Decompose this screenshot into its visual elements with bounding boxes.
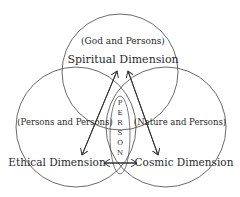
svg-text:S: S xyxy=(118,129,123,137)
svg-text:N: N xyxy=(117,149,123,157)
ethical-circle xyxy=(16,67,136,187)
cosmic-title: Cosmic Dimension xyxy=(135,156,234,168)
ethical-subtitle: (Persons and Persons) xyxy=(17,117,113,127)
venn-diagram: (God and Persons) Spiritual Dimension (P… xyxy=(0,0,240,197)
svg-text:R: R xyxy=(117,119,123,127)
ethical-title: Ethical Dimension xyxy=(8,156,106,168)
cosmic-circle xyxy=(106,67,226,187)
svg-text:E: E xyxy=(117,109,122,117)
spiritual-title: Spiritual Dimension xyxy=(67,53,178,66)
svg-text:P: P xyxy=(118,99,123,107)
person-label: P E R S O N xyxy=(117,99,123,157)
spiritual-subtitle: (God and Persons) xyxy=(81,36,165,46)
svg-text:O: O xyxy=(117,139,123,147)
